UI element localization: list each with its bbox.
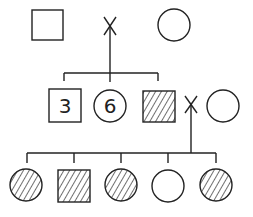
g2-males-count: 3	[59, 94, 72, 118]
sibship-line-1	[64, 27, 158, 82]
g2-females-count: 6	[104, 94, 117, 118]
g1-female-circle	[158, 9, 190, 41]
pedigree-diagram: 3 6	[0, 0, 253, 217]
g3-3-affected-circle	[105, 169, 137, 201]
g3-2-affected-square	[58, 170, 90, 202]
g3-4-circle	[152, 170, 184, 202]
g3-1-affected-circle	[10, 169, 42, 201]
g2-spouse-circle	[207, 90, 239, 122]
g1-male-square	[32, 10, 63, 40]
g3-5-affected-circle	[200, 169, 232, 201]
g2-affected-male-square	[143, 91, 175, 122]
